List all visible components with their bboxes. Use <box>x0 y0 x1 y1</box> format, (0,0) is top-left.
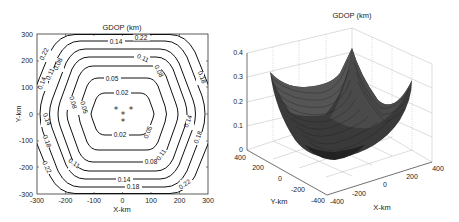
surface-y-label: Y-km <box>271 197 288 206</box>
contour-title: GDOP (km) <box>102 23 142 32</box>
station-marker: * <box>121 117 126 127</box>
x-tick: -400 <box>330 198 344 205</box>
y-tick: 300 <box>21 31 33 38</box>
surface-mesh <box>270 48 412 160</box>
contour-plot: GDOP (km) 300 200 100 0 -100 -200 -300 -… <box>14 23 216 214</box>
x-tick: -200 <box>58 197 72 204</box>
svg-text:0.14: 0.14 <box>110 38 123 45</box>
x-tick: 0 <box>121 197 125 204</box>
y-tick: 0 <box>278 175 282 182</box>
surface-x-ticks: -400 -200 0 200 400 <box>330 165 444 205</box>
x-tick: 100 <box>145 197 157 204</box>
x-tick: 400 <box>432 165 444 172</box>
y-tick: -400 <box>311 197 325 204</box>
station-marker: * <box>114 105 119 115</box>
x-tick: 200 <box>174 197 186 204</box>
z-tick: 0 <box>239 146 243 153</box>
x-tick: 300 <box>202 197 214 204</box>
x-tick: -100 <box>87 197 101 204</box>
z-tick: 0.4 <box>233 49 243 56</box>
contour-y-label: Y-km <box>14 106 23 123</box>
y-tick: 400 <box>234 154 246 161</box>
y-tick: 100 <box>21 84 33 91</box>
x-tick: -300 <box>30 197 44 204</box>
station-markers: * * * * <box>114 105 134 127</box>
surface-title: GDOP (km) <box>332 11 372 20</box>
surface-z-ticks: 0 0.1 0.2 0.3 0.4 <box>233 49 243 153</box>
svg-text:0.14: 0.14 <box>118 176 131 183</box>
station-marker: * <box>129 105 134 115</box>
y-tick: 0 <box>29 111 33 118</box>
y-tick: 200 <box>252 164 264 171</box>
x-tick: 0 <box>383 181 387 188</box>
svg-text:0.02: 0.02 <box>116 89 129 96</box>
x-tick: 200 <box>406 173 418 180</box>
z-tick: 0.1 <box>233 122 243 129</box>
surface-x-label: X-km <box>373 203 391 212</box>
z-tick: 0.3 <box>233 73 243 80</box>
x-tick: -200 <box>352 190 366 197</box>
y-tick: -200 <box>19 164 33 171</box>
y-tick: -200 <box>291 186 305 193</box>
svg-text:0.18: 0.18 <box>127 183 140 190</box>
contour-x-label: X-km <box>113 205 131 214</box>
svg-text:0.02: 0.02 <box>114 131 127 138</box>
svg-text:0.11: 0.11 <box>136 52 150 64</box>
z-tick: 0.2 <box>233 98 243 105</box>
y-tick: -100 <box>19 137 33 144</box>
y-tick: 200 <box>21 57 33 64</box>
svg-text:0.22: 0.22 <box>135 34 148 41</box>
svg-text:0.05: 0.05 <box>106 75 119 82</box>
figure: GDOP (km) 300 200 100 0 -100 -200 -300 -… <box>0 0 459 222</box>
surface-plot: GDOP (km) <box>233 11 444 212</box>
